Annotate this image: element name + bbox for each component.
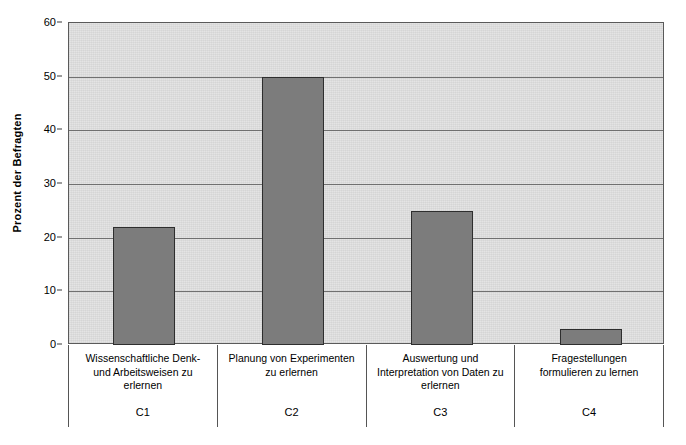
bar [560,329,622,345]
category-label-line: Fragestellungen [540,352,639,366]
category-code-text: C2 [285,406,299,418]
y-axis-tick-mark [57,129,62,130]
y-axis-tick-mark [57,236,62,237]
y-axis-tick-label: 40 [44,123,56,135]
category-label-line: Interpretation von Daten zu [377,366,504,380]
category-label-line: Auswertung und [377,352,504,366]
bar [411,211,473,345]
y-axis-tick-label: 50 [44,70,56,82]
gridline [69,77,663,78]
category-label-text: Auswertung undInterpretation von Daten z… [372,352,509,393]
y-axis-tick-mark [57,344,62,345]
category-label-line: zu erlernen [229,366,355,380]
category-label-line: erlernen [377,379,504,393]
category-code-cell: C1 [68,397,217,427]
y-axis-tick-mark [57,75,62,76]
category-code-cell: C4 [514,397,664,427]
y-axis-title-text: Prozent der Befragten [11,113,23,232]
y-axis-tick-mark [57,290,62,291]
gridline [69,184,663,185]
category-label-line: Planung von Experimenten [229,352,355,366]
gridline [69,130,663,131]
category-label-line: formulieren zu lernen [540,366,639,380]
category-code-text: C4 [582,406,596,418]
category-label-line: und Arbeitsweisen zu [85,366,200,380]
category-label-text: Wissenschaftliche Denk-und Arbeitsweisen… [80,352,205,393]
category-code-text: C1 [136,406,150,418]
y-axis-tick-label: 60 [44,16,56,28]
y-axis-tick-label: 0 [50,338,56,350]
y-axis-tick-mark [57,183,62,184]
bar [113,227,175,345]
category-code-row: C1C2C3C4 [68,397,664,427]
y-axis-tick-label: 10 [44,284,56,296]
category-label-text: Fragestellungenformulieren zu lernen [535,352,644,379]
plot-area [68,22,664,344]
category-code-cell: C3 [366,397,515,427]
category-label-line: erlernen [85,379,200,393]
y-axis-tick-label: 30 [44,177,56,189]
category-code-cell: C2 [217,397,366,427]
bar-chart: Prozent der Befragten 0102030405060 Wiss… [0,0,686,445]
category-label-text: Planung von Experimentenzu erlernen [224,352,360,379]
bar [262,77,324,345]
y-axis-title: Prozent der Befragten [0,0,34,345]
y-axis-tick-labels: 0102030405060 [30,0,62,345]
category-label-line: Wissenschaftliche Denk- [85,352,200,366]
y-axis-tick-label: 20 [44,231,56,243]
y-axis-tick-mark [57,22,62,23]
category-code-text: C3 [433,406,447,418]
